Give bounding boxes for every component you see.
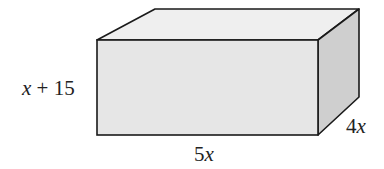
top-face xyxy=(97,9,359,40)
length-label: 5x xyxy=(194,142,215,166)
depth-label: 4x xyxy=(346,114,367,138)
height-label: x + 15 xyxy=(21,76,75,100)
prism-diagram: x + 15 5x 4x xyxy=(0,0,384,169)
front-face xyxy=(97,40,318,135)
